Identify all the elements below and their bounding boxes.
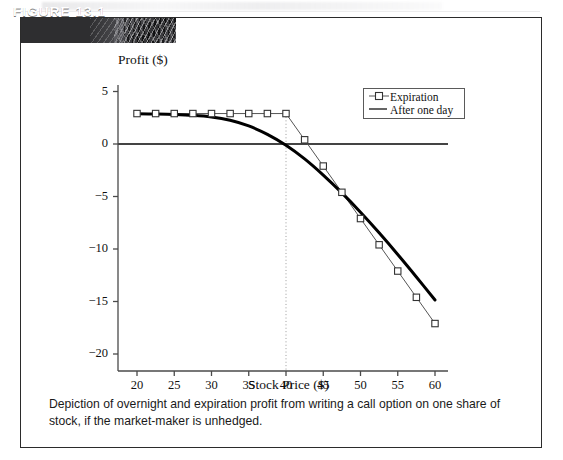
legend-marker-square-icon <box>368 91 390 103</box>
x-tick-label: 40 <box>271 378 301 393</box>
x-tick-label: 30 <box>197 378 227 393</box>
x-tick-label: 50 <box>346 378 376 393</box>
legend-label-expiration: Expiration <box>390 91 439 103</box>
x-tick-label: 20 <box>122 378 152 393</box>
figure-banner <box>21 18 176 43</box>
x-tick-label: 25 <box>159 378 189 393</box>
legend-entry-expiration: Expiration <box>368 90 439 103</box>
x-tick-label: 60 <box>420 378 450 393</box>
legend-entry-after-one-day: After one day <box>368 103 453 116</box>
legend-line-solid-icon <box>368 104 390 116</box>
y-tick-label: −10 <box>78 241 108 256</box>
figure-caption: Depiction of overnight and expiration pr… <box>49 396 509 429</box>
y-tick-label: −15 <box>78 294 108 309</box>
y-tick-label: 0 <box>78 136 108 151</box>
banner-texture-secondary-icon <box>90 18 124 43</box>
figure-root: FIGURE 13.1 Profit ($) Stock Price ($) 5… <box>0 0 563 460</box>
y-tick-label: −20 <box>78 346 108 361</box>
x-tick-label: 35 <box>234 378 264 393</box>
legend-label-after-one-day: After one day <box>390 104 453 116</box>
chart-legend: Expiration After one day <box>363 88 465 119</box>
y-axis-title: Profit ($) <box>118 52 168 68</box>
y-tick-label: 5 <box>78 84 108 99</box>
y-tick-label: −5 <box>78 189 108 204</box>
x-tick-label: 45 <box>308 378 338 393</box>
figure-number-label: FIGURE 13.1 <box>13 4 106 19</box>
x-tick-label: 55 <box>383 378 413 393</box>
